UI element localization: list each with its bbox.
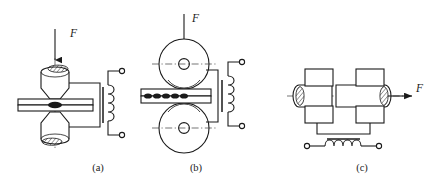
right-workpiece-hatch [380,87,388,106]
upper-electrode [41,65,69,99]
left-workpiece-hatch [296,87,304,106]
terminal-c-left [304,143,309,148]
force-label-a: F [69,27,78,39]
left-upper-clamp [305,69,333,86]
welding-transformer-c [304,139,381,149]
transformer-coil-c [325,140,361,146]
panel-c-butt-welding: F (c) [287,69,424,174]
right-upper-clamp [356,69,384,86]
caption-c: (c) [356,162,368,174]
terminal-b-top [239,59,244,64]
caption-b: (b) [190,162,203,174]
panel-b-seam-welding: F (b) [141,12,245,174]
welding-transformer-b [222,59,245,128]
lower-roller-electrode [152,103,216,153]
force-label-b: F [191,12,200,24]
lower-electrode [41,112,69,145]
lower-electrode-hatch [42,138,62,145]
upper-electrode-hatch [48,65,68,72]
welding-figure: F (a) [0,0,433,186]
upper-roller-electrode [152,39,216,89]
left-workpiece-bar [293,85,332,107]
diagram-canvas: F (a) [0,0,433,186]
transformer-coil-a [108,85,114,121]
terminal-c-right [376,143,381,148]
force-label-c: F [415,82,424,94]
panel-a-spot-welding: F (a) [18,27,125,174]
transformer-coil-b [228,76,234,112]
caption-a: (a) [92,162,104,174]
terminal-a-top [119,68,124,73]
terminal-a-bottom [119,132,124,137]
left-lower-clamp [305,106,333,123]
right-workpiece-bar [336,85,391,107]
right-lower-clamp [356,106,384,123]
welding-transformer-a [103,68,125,137]
terminal-b-bottom [239,123,244,128]
secondary-circuit-c [317,123,370,134]
weld-nugget-row-b [144,93,188,98]
weld-nugget-a [48,102,62,109]
